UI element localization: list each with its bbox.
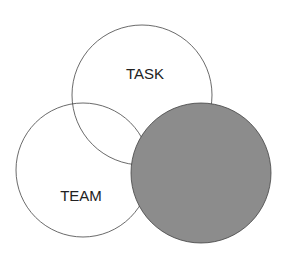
team-label: TEAM: [60, 187, 102, 204]
task-label: TASK: [126, 65, 164, 82]
venn-diagram: TASK TEAM: [0, 0, 285, 264]
team-circle: [16, 103, 150, 237]
shaded-circle: [131, 103, 271, 243]
